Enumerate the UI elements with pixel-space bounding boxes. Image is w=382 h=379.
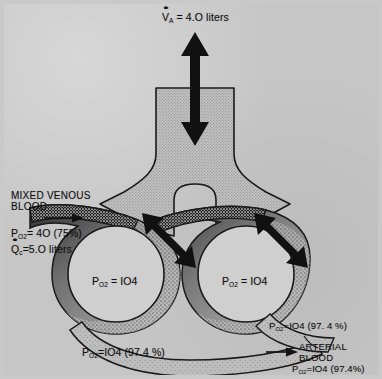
capillary-flow-label: Qc=5.O liters: [11, 244, 72, 256]
alveolar-ventilation-value: = 4.O liters: [174, 11, 229, 23]
o2-subscript: O2: [18, 233, 27, 240]
venous-po2-label: PO2= 4O (75%): [11, 228, 82, 240]
alveolus-right-value: = IO4: [238, 275, 268, 287]
pulmonary-vein-right-value: =IO4 (97. 4 %): [283, 320, 346, 331]
figure-canvas: VA = 4.O liters MIXED VENOUS BLOOD PO2= …: [0, 0, 382, 379]
venous-po2-value: = 4O (75%): [27, 227, 82, 239]
arterial-line2: BLOOD: [299, 353, 347, 364]
alveolus-left-value: = IO4: [108, 275, 138, 287]
alveolar-ventilation-label: VA = 4.O liters: [162, 12, 229, 24]
alveolus-right-label: PO2 = IO4: [222, 276, 267, 288]
arterial-po2-value: =IO4 (97.4%): [306, 363, 364, 374]
v-dot-symbol: V: [162, 11, 169, 23]
mixed-venous-line1: MIXED VENOUS: [11, 190, 91, 201]
capillary-flow-value: =5.O liters: [23, 243, 72, 255]
mixed-venous-line2: BLOOD: [11, 201, 91, 212]
arterial-po2-label: PO2=IO4 (97.4%): [292, 364, 364, 375]
figure-frame: VA = 4.O liters MIXED VENOUS BLOOD PO2= …: [4, 4, 378, 375]
arterial-blood-label: ARTERIAL BLOOD: [299, 342, 347, 363]
q-dot-symbol: Q: [11, 243, 19, 255]
pulmonary-vein-right-label: PO2=IO4 (97. 4 %): [269, 321, 347, 332]
o2-subscript: O2: [99, 281, 108, 288]
pulmonary-vein-bottom-value: =IO4 (97.4 %): [98, 346, 165, 358]
o2-subscript: O2: [229, 281, 238, 288]
mixed-venous-blood-label: MIXED VENOUS BLOOD: [11, 190, 91, 212]
alveolus-left: [68, 226, 164, 322]
pulmonary-vein-bottom-label: PO2=IO4 (97.4 %): [82, 347, 165, 359]
o2-subscript: O2: [89, 352, 98, 359]
alveolus-left-label: PO2 = IO4: [92, 276, 137, 288]
